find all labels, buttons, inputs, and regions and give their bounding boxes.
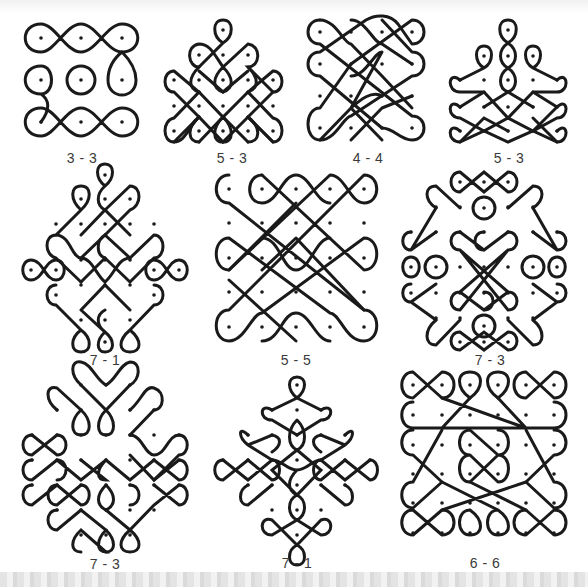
kolam-7-3-b xyxy=(23,362,187,552)
caption-7-1-b: 7 - 1 xyxy=(282,555,313,571)
caption-7-3-b: 7 - 3 xyxy=(90,556,121,572)
caption-5-3-a: 5 - 3 xyxy=(217,150,248,166)
caption-5-3-b: 5 - 3 xyxy=(494,150,525,166)
caption-5-5: 5 - 5 xyxy=(281,352,312,368)
kolam-6-6 xyxy=(402,372,566,535)
kolam-4-4 xyxy=(308,16,424,140)
caption-3-3: 3 - 3 xyxy=(67,150,98,166)
caption-6-6: 6 - 6 xyxy=(470,555,501,571)
caption-7-1-a: 7 - 1 xyxy=(90,352,121,368)
scan-edge-bottom xyxy=(0,572,588,587)
kolam-7-1-b xyxy=(215,377,378,565)
kolam-7-3-a xyxy=(403,172,566,350)
kolam-figure xyxy=(0,0,588,587)
caption-7-3-a: 7 - 3 xyxy=(475,352,506,368)
caption-4-4: 4 - 4 xyxy=(353,150,384,166)
kolam-7-1-a xyxy=(23,164,188,352)
